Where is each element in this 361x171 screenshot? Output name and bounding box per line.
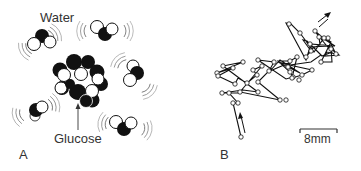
scale-bar-label: 8mm <box>304 132 331 146</box>
glucose-label: Glucose <box>54 131 102 146</box>
end-direction-arrow <box>318 12 331 27</box>
water-molecule <box>10 92 62 127</box>
water-molecule <box>16 22 65 62</box>
path-nodes <box>215 22 338 139</box>
panel-a <box>10 21 160 141</box>
panel-b-label: B <box>220 147 229 162</box>
panel-a-label: A <box>19 147 28 162</box>
panel-b <box>215 22 339 139</box>
water-molecule <box>96 112 153 141</box>
water-molecule <box>77 21 134 42</box>
water-molecule <box>108 50 159 101</box>
random-walk-path <box>217 23 339 137</box>
water-label: Water <box>40 10 75 25</box>
glucose-molecule <box>53 54 109 108</box>
figure: Water Glucose A <box>0 0 361 171</box>
